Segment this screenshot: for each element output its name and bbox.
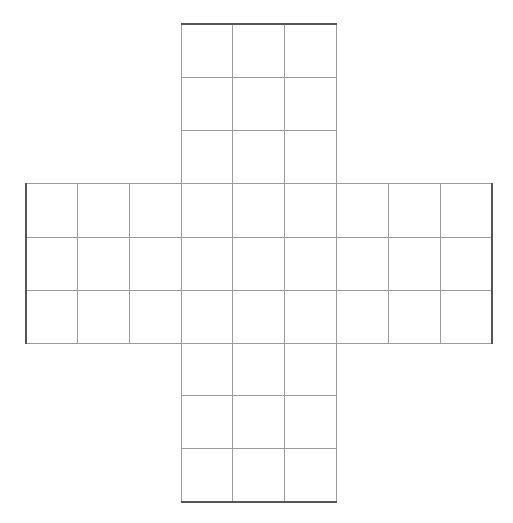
grid-cell [129, 183, 182, 238]
grid-cell [284, 130, 337, 184]
grid-cell [232, 448, 285, 503]
grid-cell [181, 395, 233, 449]
grid-cell [181, 237, 233, 291]
grid-cell [388, 237, 441, 291]
grid-cell [440, 237, 493, 291]
grid-cell [181, 343, 233, 396]
grid-cell [181, 290, 233, 344]
grid-cell [77, 290, 130, 344]
grid-cell [181, 77, 233, 131]
grid-cell [232, 237, 285, 291]
grid-cell [181, 183, 233, 238]
grid-cell [284, 77, 337, 131]
grid-cell [232, 23, 285, 78]
grid-cell [181, 130, 233, 184]
grid-cell [181, 23, 233, 78]
grid-cell [284, 343, 337, 396]
grid-cell [336, 290, 389, 344]
grid-cell [129, 290, 182, 344]
grid-cell [440, 183, 493, 238]
grid-cell [284, 237, 337, 291]
grid-cell [77, 183, 130, 238]
grid-cell [284, 183, 337, 238]
grid-cell [284, 395, 337, 449]
grid-cell [232, 77, 285, 131]
grid-cell [129, 237, 182, 291]
grid-cell [25, 183, 78, 238]
grid-cell [232, 290, 285, 344]
grid-cell [336, 183, 389, 238]
grid-cell [336, 237, 389, 291]
grid-cell [440, 290, 493, 344]
grid-cell [77, 237, 130, 291]
grid-cell [25, 290, 78, 344]
grid-cell [284, 23, 337, 78]
grid-cell [284, 290, 337, 344]
grid-cell [232, 395, 285, 449]
grid-cell [388, 183, 441, 238]
grid-cell [232, 130, 285, 184]
grid-cell [181, 448, 233, 503]
grid-cell [232, 183, 285, 238]
grid-cell [232, 343, 285, 396]
cross-grid-diagram [0, 0, 513, 523]
grid-cell [25, 237, 78, 291]
grid-cell [284, 448, 337, 503]
grid-cell [388, 290, 441, 344]
